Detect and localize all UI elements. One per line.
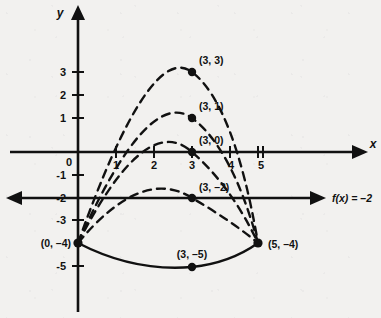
y-axis-arrow <box>71 5 85 20</box>
x-tick-label-5: 5 <box>258 159 264 171</box>
point-label-3-3: (3, 3) <box>199 54 224 66</box>
y-tick-label-2: 2 <box>60 89 66 101</box>
y-tick-label-minus1: -1 <box>56 169 66 181</box>
x-tick-label-3: 3 <box>189 159 195 171</box>
point-3-1 <box>188 114 196 122</box>
point-3-minus5 <box>188 263 196 271</box>
point-label-3-minus5: (3, –5) <box>177 248 207 260</box>
point-label-3-minus2: (3, –2) <box>199 181 229 193</box>
curve-through-3-minus5 <box>78 243 258 268</box>
x-axis-arrow <box>352 145 368 159</box>
y-tick-label-minus5: -5 <box>56 260 66 272</box>
y-tick-label-minus3: -3 <box>56 214 66 226</box>
y-axis-label: y <box>56 6 65 20</box>
point-3-3 <box>188 68 196 76</box>
horizontal-line-group <box>6 191 326 205</box>
point-label-3-1: (3, 1) <box>199 100 224 112</box>
x-tick-label-2: 2 <box>151 159 157 171</box>
point-5-minus4 <box>253 238 262 247</box>
point-label-5-minus4: (5, –4) <box>268 238 298 250</box>
x-axis-label: x <box>369 137 378 151</box>
graph-figure: y x 1 2 3 4 5 3 2 1 0 -1 -2 -3 -5 f(x) =… <box>0 0 381 318</box>
fx-equals-minus2-label: f(x) = –2 <box>332 192 372 204</box>
y-tick-label-0: 0 <box>66 156 72 168</box>
point-3-minus2 <box>188 194 196 202</box>
point-0-minus4 <box>73 238 82 247</box>
y-tick-label-1: 1 <box>60 112 66 124</box>
horizontal-line-left-arrow <box>6 191 22 205</box>
point-label-3-0: (3, 0) <box>199 134 224 146</box>
point-label-0-minus4: (0, –4) <box>41 237 71 249</box>
horizontal-line-right-arrow <box>310 191 326 205</box>
marked-points <box>73 68 262 271</box>
y-tick-label-3: 3 <box>60 66 66 78</box>
point-3-0 <box>188 148 196 156</box>
